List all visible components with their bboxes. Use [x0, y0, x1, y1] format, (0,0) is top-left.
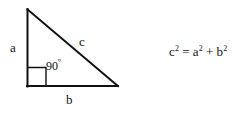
right-angle-value: 90 [46, 59, 58, 73]
side-label-c: c [79, 35, 85, 48]
equation-plus-sign: + [206, 44, 214, 59]
equation-equals-sign: = [182, 44, 190, 59]
pythagorean-equation: c2=a2+b2 [169, 45, 227, 58]
geometry-figure: a b c 90º c2=a2+b2 [0, 0, 252, 113]
right-angle-label: 90º [46, 60, 61, 72]
equation-exponent-a: 2 [199, 44, 203, 53]
degree-symbol-icon: º [58, 57, 61, 67]
side-label-a: a [10, 41, 16, 54]
side-label-b: b [66, 93, 73, 106]
equation-exponent-b: 2 [223, 44, 227, 53]
equation-exponent-c: 2 [175, 44, 179, 53]
